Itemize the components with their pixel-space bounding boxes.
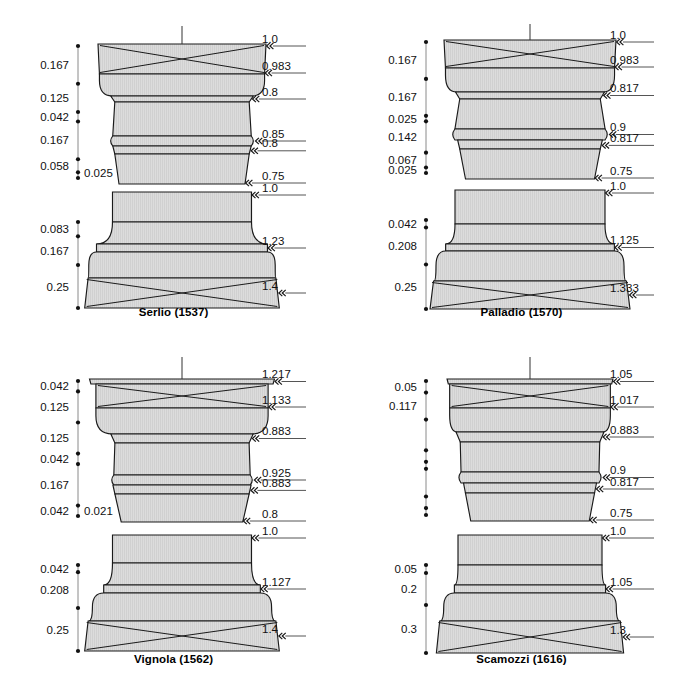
dimension-label: 1.127 <box>262 576 291 588</box>
dimension-label: 1.133 <box>262 394 291 406</box>
scale-interval-label: 0.2 <box>401 583 417 595</box>
panel-serlio: 1.00.9830.80.850.80.751.01.231.40.1670.1… <box>0 0 347 347</box>
scale-tick <box>424 114 428 118</box>
scale-interval-label: 0.25 <box>47 281 69 293</box>
scale-tick <box>76 119 80 123</box>
fillet-lower <box>458 140 603 149</box>
fillet-lower <box>464 483 597 493</box>
panel-scamozzi: 1.051.0170.8830.90.8170.751.01.051.30.05… <box>348 347 695 694</box>
fillet-upper <box>456 432 604 442</box>
scale-tick <box>424 571 428 575</box>
scale-tick <box>424 417 428 421</box>
dimension-label: 0.75 <box>262 170 284 182</box>
scale-tick <box>76 606 80 610</box>
fillet <box>104 585 261 593</box>
scale-tick <box>424 165 428 169</box>
scale-tick <box>424 40 428 44</box>
fillet-upper <box>456 92 605 99</box>
scale-tick <box>76 420 80 424</box>
neck <box>113 102 252 136</box>
scale-tick <box>76 379 80 383</box>
dimension-label: 0.883 <box>610 424 639 436</box>
scale-interval-label: 0.083 <box>40 223 69 235</box>
dimension-label: 0.8 <box>262 137 278 149</box>
drawing-serlio: 1.00.9830.80.850.80.751.01.231.40.1670.1… <box>0 0 347 347</box>
dimension-label: 0.817 <box>610 476 639 488</box>
dimension-label: 1.3 <box>610 624 626 636</box>
dimension-label: 0.883 <box>262 477 291 489</box>
scale-interval-label: 0.042 <box>388 218 417 230</box>
dimension-label: 1.0 <box>262 525 278 537</box>
scale-tick <box>424 563 428 567</box>
scale-tick <box>424 390 428 394</box>
scale-interval-label: 0.208 <box>40 584 69 596</box>
panel-caption: Vignola (1562) <box>0 653 347 665</box>
scale-interval-label: 0.042 <box>40 563 69 575</box>
dimension-label: 0.983 <box>262 60 291 72</box>
column-shaft <box>115 494 249 522</box>
scale-interval-label: 0.208 <box>388 240 417 252</box>
scale-tick <box>424 77 428 81</box>
dimension-label: 0.75 <box>610 507 632 519</box>
scale-tick <box>424 513 428 517</box>
scale-tick <box>76 176 80 180</box>
dimension-label: 1.125 <box>610 234 639 246</box>
scale-tick <box>76 157 80 161</box>
scale-interval-label: 0.025 <box>388 113 417 125</box>
scale-tick <box>424 171 428 175</box>
fillet <box>454 585 605 593</box>
scale-interval-label: 0.117 <box>389 400 417 412</box>
scale-interval-label: 0.167 <box>40 245 69 257</box>
scale-tick <box>424 448 428 452</box>
column-shaft <box>465 493 594 521</box>
echinus-ovolo <box>99 74 264 96</box>
scale-interval-label: 0.125 <box>40 401 69 413</box>
scale-aside-label: 0.025 <box>84 167 113 179</box>
torus <box>89 593 276 621</box>
dimension-label: 1.4 <box>262 280 279 292</box>
dimension-label: 1.0 <box>610 180 626 192</box>
panel-caption: Palladio (1570) <box>348 306 695 318</box>
astragal-bead <box>112 475 252 485</box>
scale-interval-label: 0.25 <box>395 281 417 293</box>
scale-aside-label: 0.021 <box>84 505 113 517</box>
dimension-label: 1.333 <box>610 282 639 294</box>
scale-tick <box>424 379 428 383</box>
drawing-scamozzi: 1.051.0170.8830.90.8170.751.01.051.30.05… <box>348 347 695 694</box>
neck <box>455 99 605 129</box>
dimension-label: 0.8 <box>262 508 278 520</box>
neck <box>460 442 600 472</box>
apophyge-cavetto <box>104 563 261 585</box>
column-shaft <box>115 154 249 184</box>
scale-tick <box>424 467 428 471</box>
column-shaft <box>458 535 602 565</box>
scale-tick <box>424 603 428 607</box>
scale-interval-label: 0.058 <box>40 160 69 172</box>
astragal-bead <box>459 472 601 483</box>
column-shaft <box>113 535 252 563</box>
fillet <box>446 244 615 251</box>
dimension-label: 0.8 <box>262 86 278 98</box>
dimension-label: 1.0 <box>262 33 278 45</box>
scale-interval-label: 0.142 <box>388 131 417 143</box>
scale-interval-label: 0.167 <box>388 91 417 103</box>
scale-tick <box>76 462 80 466</box>
fillet-lower <box>113 485 251 494</box>
fillet-lower <box>113 146 251 154</box>
neck <box>114 443 250 475</box>
dimension-label: 1.0 <box>610 29 626 41</box>
torus <box>89 252 276 278</box>
dimension-label: 0.983 <box>610 54 639 66</box>
echinus-ovolo <box>445 68 614 92</box>
scale-tick <box>76 514 80 518</box>
scale-interval-label: 0.05 <box>395 381 417 393</box>
scale-tick <box>424 494 428 498</box>
drawing-vignola: 1.2171.1330.8830.9250.8830.81.01.1271.40… <box>0 347 347 694</box>
scale-tick <box>424 225 428 229</box>
torus <box>440 593 620 621</box>
dimension-label: 0.817 <box>610 82 639 94</box>
apophyge-cavetto <box>97 222 268 244</box>
scale-tick <box>76 234 80 238</box>
echinus-ovolo <box>450 408 611 432</box>
scale-tick <box>76 44 80 48</box>
